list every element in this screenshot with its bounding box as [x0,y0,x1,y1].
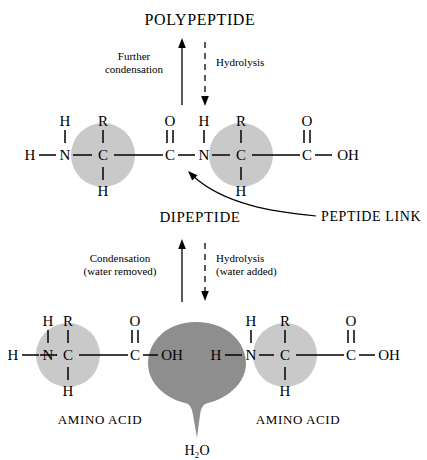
atom-c-alpha-1: C [98,147,108,163]
atom-h-on-n-right: H [246,313,257,329]
bottom-condensation-label-line1: Condensation [90,252,151,264]
atom-c-carbonyl-1: C [165,147,175,163]
atom-h-on-n-1: H [60,113,71,129]
atom-o-carbonyl-right: O [346,313,357,329]
bottom-hydrolysis-label-line1: Hydrolysis [216,252,264,264]
peptide-link-label: PEPTIDE LINK [321,209,421,224]
top-condensation-label-line2: condensation [105,63,164,75]
atom-o-carbonyl-2: O [302,113,313,129]
atom-oh-right: OH [378,347,400,363]
atom-h-on-c-right: H [280,383,291,399]
atom-h-on-n-left: H [43,313,54,329]
page-title-polypeptide: POLYPEPTIDE [145,11,256,28]
atom-c-carbonyl-left: C [130,347,140,363]
bottom-hydrolysis-label-line2: (water added) [216,265,277,278]
atom-n-peptide-link: N [199,147,210,163]
atom-oh-2: OH [337,147,359,163]
atom-h-terminal-right: H [211,347,222,363]
atom-h-terminal-left: H [8,347,19,363]
atom-h-on-c-2: H [236,183,247,199]
atom-r-2: R [236,113,246,129]
bottom-condensation-label-line2: (water removed) [84,265,157,278]
atom-r-left: R [63,313,73,329]
water-label: H₂O [184,443,209,458]
atom-o-carbonyl-1: O [165,113,176,129]
atom-c-alpha-left: C [63,347,73,363]
amino-acid-right-label: AMINO ACID [256,412,340,427]
atom-h-on-c-1: H [98,183,109,199]
atom-h-terminal-1: H [25,147,36,163]
section-title-dipeptide: DIPEPTIDE [159,209,240,225]
atom-h-on-n-link: H [199,113,210,129]
atom-n-right: N [246,347,257,363]
atom-r-right: R [280,313,290,329]
amino-acid-left-label: AMINO ACID [58,412,142,427]
atom-oh-left: OH [161,347,183,363]
atom-r-1: R [98,113,108,129]
top-hydrolysis-label: Hydrolysis [216,56,264,68]
atom-h-on-c-left: H [63,383,74,399]
atom-c-alpha-right: C [280,347,290,363]
atom-c-alpha-2: C [236,147,246,163]
atom-c-carbonyl-2: C [302,147,312,163]
atom-o-carbonyl-left: O [130,313,141,329]
atom-n-1: N [60,147,71,163]
top-condensation-label-line1: Further [118,50,151,62]
diagram-canvas: POLYPEPTIDE Further condensation Hydroly… [0,0,427,460]
atom-c-carbonyl-right: C [346,347,356,363]
atom-n-left: N [43,347,54,363]
